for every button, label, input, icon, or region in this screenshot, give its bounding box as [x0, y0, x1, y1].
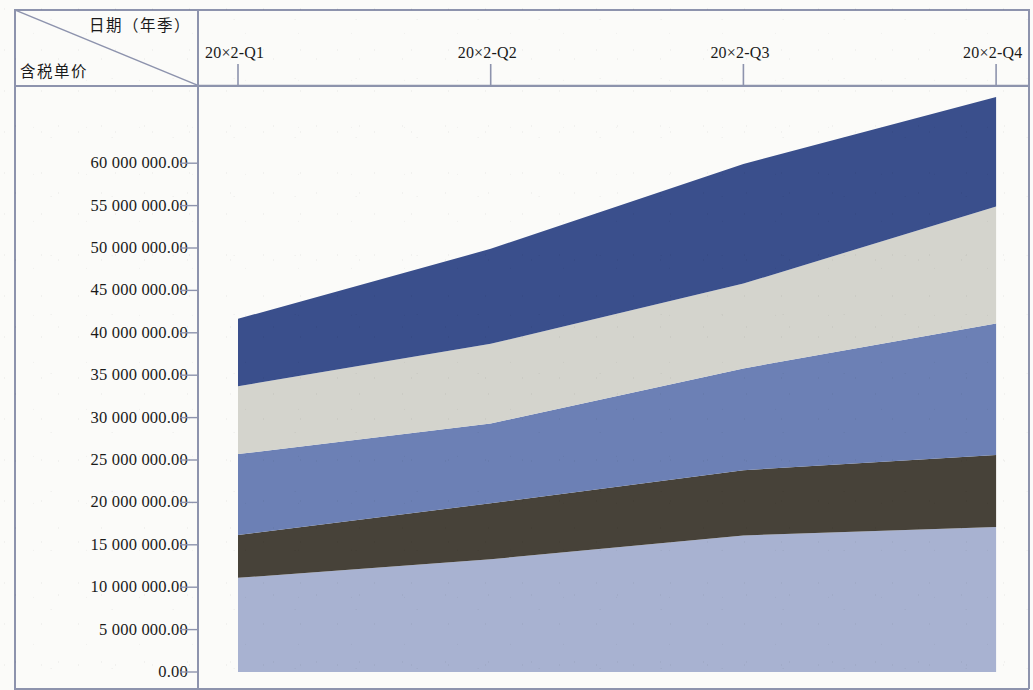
area-band-group: [238, 97, 996, 672]
chart-page: 日期（年季） 含税单价 20×2-Q120×2-Q220×2-Q320×2-Q4…: [0, 0, 1033, 690]
stacked-area-plot: [0, 0, 1033, 690]
